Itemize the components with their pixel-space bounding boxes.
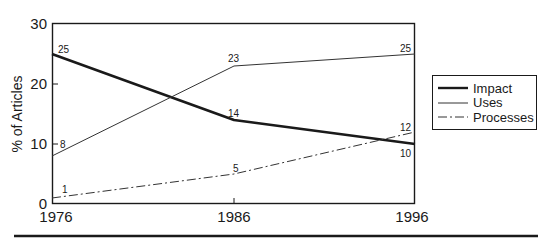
y-tick-30: 30 — [30, 15, 47, 32]
legend-impact-label: Impact — [473, 81, 512, 96]
y-axis-label: % of Articles — [9, 75, 25, 152]
y-tick-20: 20 — [30, 75, 47, 92]
series-impact-line — [52, 54, 415, 144]
uses-label-1986: 23 — [228, 53, 240, 64]
impact-label-1986: 14 — [228, 108, 240, 119]
impact-label-1976: 25 — [58, 44, 70, 55]
legend-uses-label: Uses — [473, 95, 503, 110]
series-uses-line — [52, 54, 415, 156]
x-tick-1996: 1996 — [395, 208, 428, 225]
y-tick-10: 10 — [30, 135, 47, 152]
x-tick-1976: 1976 — [39, 208, 72, 225]
uses-label-1976: 8 — [60, 139, 66, 150]
legend: Impact Uses Processes — [433, 76, 537, 130]
processes-label-1996: 12 — [400, 122, 412, 133]
legend-processes-label: Processes — [473, 110, 534, 125]
impact-label-1996: 10 — [400, 148, 412, 159]
x-tick-1986: 1986 — [217, 208, 250, 225]
uses-label-1996: 25 — [400, 43, 412, 54]
processes-label-1986: 5 — [233, 163, 239, 174]
chart: % of Articles 30 20 10 0 1976 1986 1996 … — [0, 0, 558, 242]
processes-label-1976: 1 — [62, 184, 68, 195]
